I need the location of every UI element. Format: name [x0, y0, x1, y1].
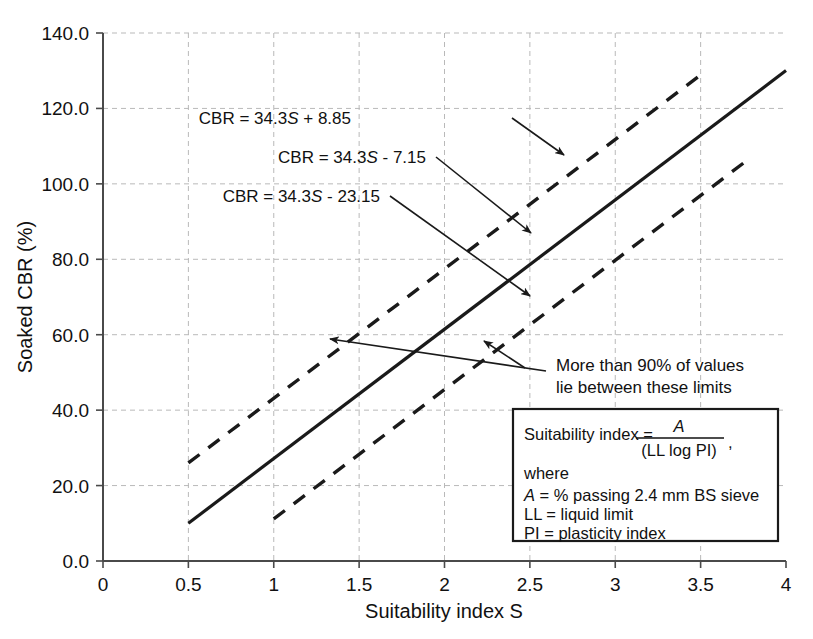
x-axis-ticks [103, 561, 786, 568]
x-tick-label: 3.5 [687, 574, 713, 595]
x-tick-label: 1.5 [346, 574, 372, 595]
leader-limits-left [330, 339, 546, 371]
x-tick-label: 4 [781, 574, 792, 595]
y-tick-label: 100.0 [41, 174, 89, 195]
chart-figure: 0.020.040.060.080.0100.0120.0140.0 00.51… [0, 0, 813, 639]
y-axis-title: Soaked CBR (%) [14, 221, 36, 373]
leader-eq-lower [390, 196, 530, 296]
x-tick-label: 1 [268, 574, 279, 595]
x-tick-label: 0 [98, 574, 109, 595]
definition-line-a: A = % passing 2.4 mm BS sieve [523, 486, 759, 504]
annotation-eq-lower: CBR = 34.3S - 23.15 [223, 187, 380, 206]
y-tick-label: 120.0 [41, 98, 89, 119]
x-tick-label: 3 [610, 574, 621, 595]
definition-line-ll: LL = liquid limit [524, 505, 633, 523]
x-tick-label: 2.5 [517, 574, 543, 595]
x-tick-label: 2 [439, 574, 450, 595]
y-axis-tick-labels: 0.020.040.060.080.0100.0120.0140.0 [41, 23, 89, 572]
annotation-limits-line2: lie between these limits [556, 378, 732, 397]
definition-where-label: where [523, 464, 569, 482]
y-tick-label: 40.0 [52, 400, 89, 421]
x-tick-label: 0.5 [175, 574, 201, 595]
leader-eq-upper [512, 118, 564, 155]
y-tick-label: 0.0 [63, 551, 89, 572]
definition-numerator: A [672, 417, 684, 435]
y-tick-label: 20.0 [52, 476, 89, 497]
y-axis-ticks [96, 33, 103, 561]
leader-eq-mid [436, 157, 531, 233]
y-tick-label: 60.0 [52, 325, 89, 346]
definition-denominator: (LL log PI) [641, 441, 717, 459]
definition-comma: , [728, 433, 733, 451]
definition-formula-label: Suitability index = [524, 425, 653, 443]
definition-box: Suitability index = A (LL log PI) , wher… [513, 409, 778, 542]
annotation-limits-line1: More than 90% of values [556, 356, 744, 375]
x-axis-tick-labels: 00.511.522.533.54 [98, 574, 792, 595]
definition-line-pi: PI = plasticity index [524, 524, 666, 542]
y-tick-label: 80.0 [52, 249, 89, 270]
annotation-eq-mid: CBR = 34.3S - 7.15 [278, 148, 426, 167]
cbr-suitability-index-chart: 0.020.040.060.080.0100.0120.0140.0 00.51… [0, 0, 813, 639]
x-axis-title: Suitability index S [365, 600, 523, 622]
y-tick-label: 140.0 [41, 23, 89, 44]
annotation-eq-upper: CBR = 34.3S + 8.85 [199, 109, 351, 128]
